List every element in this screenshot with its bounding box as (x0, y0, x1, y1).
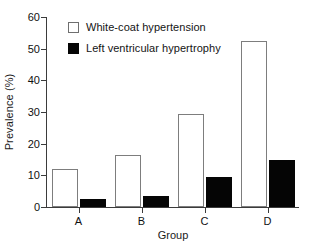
bar-b-series2 (143, 196, 169, 207)
y-axis-tick-label: 10 (18, 170, 40, 181)
x-axis-tick-label: A (64, 215, 94, 227)
open-square-icon (68, 22, 79, 33)
y-axis-tick-label: 60 (18, 12, 40, 23)
y-axis-tick-label: 50 (18, 43, 40, 54)
x-axis-label: Group (47, 229, 299, 241)
bar-a-series1 (52, 169, 78, 207)
x-axis-tick-mark (142, 208, 143, 213)
bar-a-series2 (80, 199, 106, 207)
y-axis-tick-labels: 0102030405060 (16, 0, 40, 242)
filled-square-icon (68, 43, 79, 54)
y-axis-tick-label: 20 (18, 138, 40, 149)
legend-item-label: White-coat hypertension (86, 21, 206, 33)
y-axis-label: Prevalence (%) (2, 14, 16, 210)
x-axis-tick-mark (79, 208, 80, 213)
bar-c-series1 (178, 114, 204, 207)
x-axis-tick-label: B (127, 215, 157, 227)
x-axis-line (46, 207, 299, 208)
bar-c-series2 (206, 177, 232, 207)
x-axis-tick-label: C (190, 215, 220, 227)
x-axis-tick-mark (205, 208, 206, 213)
bar-b-series1 (115, 155, 141, 207)
x-axis-tick-label: D (253, 215, 283, 227)
chart-legend: White-coat hypertensionLeft ventricular … (68, 18, 221, 60)
legend-item-label: Left ventricular hypertrophy (86, 42, 221, 54)
y-axis-tick-label: 0 (18, 202, 40, 213)
y-axis-tick-label: 30 (18, 107, 40, 118)
y-axis-tick-label: 40 (18, 75, 40, 86)
y-axis-label-container: Prevalence (%) (2, 14, 16, 210)
legend-item: Left ventricular hypertrophy (68, 39, 221, 57)
x-axis-tick-mark (268, 208, 269, 213)
bar-d-series2 (269, 160, 295, 208)
legend-item: White-coat hypertension (68, 18, 221, 36)
bar-d-series1 (241, 41, 267, 207)
bar-chart-figure: Prevalence (%) 0102030405060 ABCD Group … (0, 0, 320, 242)
